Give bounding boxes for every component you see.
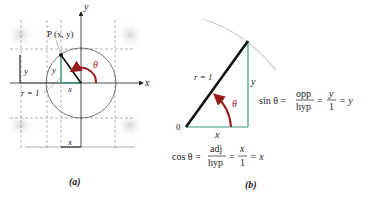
bracket-x-label: x xyxy=(67,137,72,147)
leg-y-label-b: y xyxy=(250,76,256,87)
sin-equation: sin θ = opp hyp = y 1 = y xyxy=(259,88,353,112)
axis-y-label: y xyxy=(83,1,89,12)
leg-x-label: x xyxy=(67,84,72,94)
caption-a: (a) xyxy=(69,176,81,188)
origin-label: 0 xyxy=(176,122,181,132)
theta-label-b: θ xyxy=(232,98,237,109)
cos-num2: x xyxy=(239,143,245,154)
theta-label-a: θ xyxy=(93,59,98,70)
cos-num1: adj xyxy=(210,143,222,154)
sin-rhs: = y xyxy=(339,95,353,106)
theta-arc-b xyxy=(216,96,231,127)
axis-x-label: x xyxy=(144,77,150,88)
caption-b: (b) xyxy=(245,179,257,191)
panel-b: 0 r = 1 θ y x sin θ = opp hyp = y 1 = y … xyxy=(172,19,353,191)
leg-y-label: y xyxy=(51,65,56,75)
point-label: P (x, y) xyxy=(47,29,73,39)
cos-den1: hyp xyxy=(208,157,223,168)
radius-label-a: r = 1 xyxy=(21,88,40,98)
radius-label-b: r = 1 xyxy=(194,72,213,82)
sin-num2: y xyxy=(328,88,334,99)
panel-a: y x P (x, y) θ y y x r = 1 x (a) xyxy=(7,1,150,188)
radius-line xyxy=(61,55,81,83)
sin-lhs: sin θ = xyxy=(259,95,286,106)
cos-eq1: = xyxy=(229,151,235,162)
bracket-y-label: y xyxy=(23,66,28,76)
shaded-corners xyxy=(7,21,144,139)
unit-arc-b xyxy=(203,19,276,70)
cos-equation: cos θ = adj hyp = x 1 = x xyxy=(172,143,264,168)
cos-rhs: = x xyxy=(250,151,264,162)
unit-circle-diagram: y x P (x, y) θ y y x r = 1 x (a) 0 r = 1… xyxy=(0,0,371,203)
cos-lhs: cos θ = xyxy=(172,151,201,162)
sin-den1: hyp xyxy=(296,101,311,112)
cos-den2: 1 xyxy=(240,157,245,168)
radius-line-b xyxy=(186,41,248,127)
sin-den2: 1 xyxy=(329,101,334,112)
sin-num1: opp xyxy=(296,88,311,99)
sin-eq1: = xyxy=(317,95,323,106)
leg-x-label-b: x xyxy=(214,129,220,140)
